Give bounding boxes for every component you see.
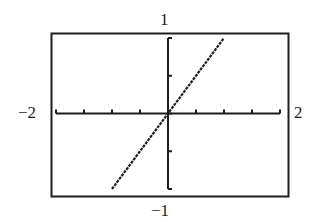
graph-window [0,0,320,222]
viewing-window-frame [52,34,289,197]
